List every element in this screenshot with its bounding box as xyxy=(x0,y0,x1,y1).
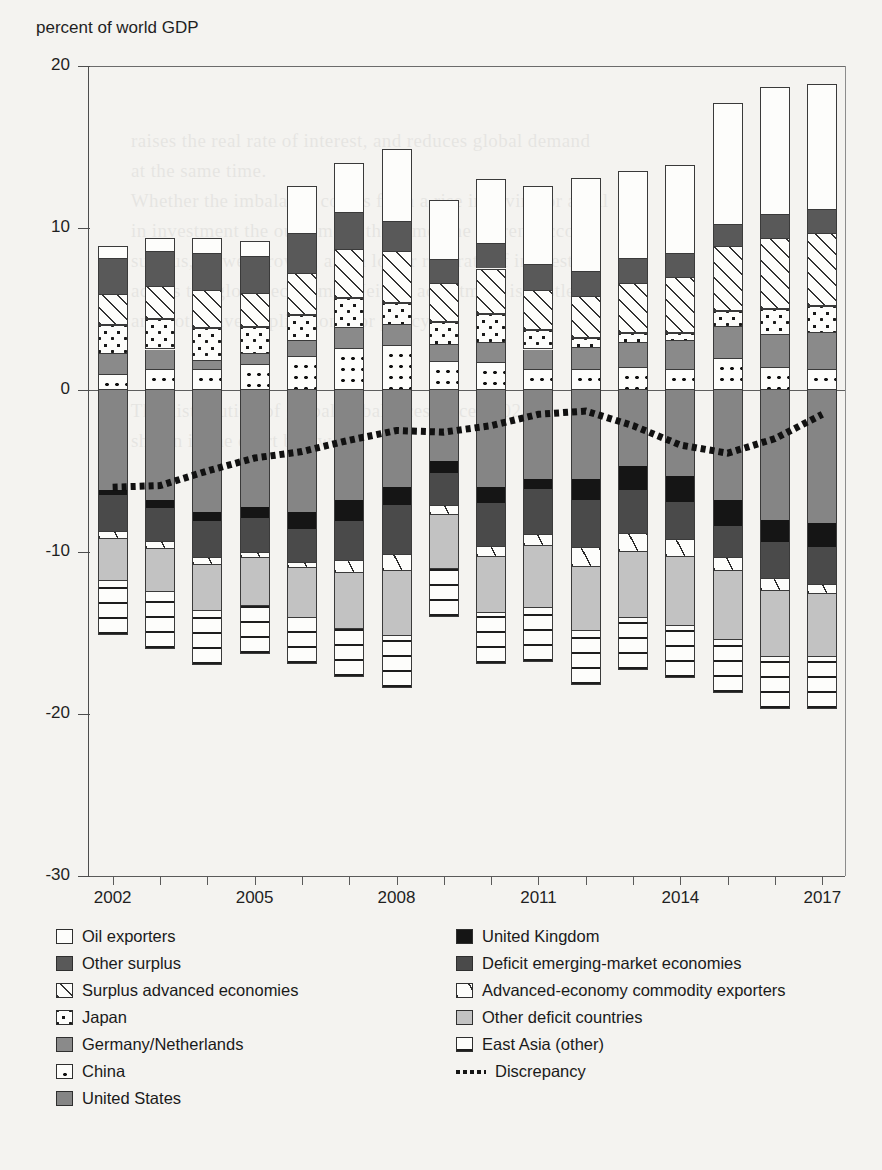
legend-item-label: United Kingdom xyxy=(482,926,599,946)
bar-2004[interactable] xyxy=(192,66,222,876)
legend-item-label: Deficit emerging-market economies xyxy=(482,953,742,973)
legend-column-left: Oil exportersOther surplusSurplus advanc… xyxy=(56,926,456,1115)
legend-item[interactable]: Advanced-economy commodity exporters xyxy=(456,980,856,1000)
x-axis-tick xyxy=(160,876,161,885)
bar-segment xyxy=(523,350,553,369)
bar-segment xyxy=(192,361,222,369)
bar-2016[interactable] xyxy=(760,66,790,876)
bar-segment xyxy=(618,333,648,343)
bar-segment xyxy=(618,617,648,670)
y-axis-label: -20 xyxy=(14,703,70,723)
legend-item[interactable]: China xyxy=(56,1061,456,1081)
bar-segment xyxy=(334,213,364,249)
bar-segment xyxy=(287,512,317,530)
bar-2008[interactable] xyxy=(382,66,412,876)
bar-segment xyxy=(713,571,743,639)
legend-item-label: Other deficit countries xyxy=(482,1007,643,1027)
bar-segment xyxy=(523,330,553,349)
bar-segment xyxy=(571,390,601,479)
bar-segment xyxy=(334,249,364,298)
bar-2006[interactable] xyxy=(287,66,317,876)
legend-swatch xyxy=(56,1010,73,1025)
bar-segment xyxy=(713,358,743,390)
bar-2015[interactable] xyxy=(713,66,743,876)
x-axis-label: 2014 xyxy=(661,888,699,908)
legend-item[interactable]: United States xyxy=(56,1088,456,1108)
bar-segment xyxy=(145,549,175,591)
bar-2007[interactable] xyxy=(334,66,364,876)
legend-item-label: Advanced-economy commodity exporters xyxy=(482,980,786,1000)
bar-segment xyxy=(523,479,553,489)
bar-segment xyxy=(618,533,648,552)
bar-segment xyxy=(523,369,553,390)
bar-segment xyxy=(240,558,270,605)
bar-2009[interactable] xyxy=(429,66,459,876)
y-axis-label: 20 xyxy=(14,55,70,75)
bar-segment xyxy=(476,546,506,557)
x-axis-tick xyxy=(397,876,398,885)
bar-segment xyxy=(382,571,412,634)
bar-segment xyxy=(192,521,222,557)
bar-segment xyxy=(382,345,412,390)
bar-segment xyxy=(429,260,459,283)
bar-segment xyxy=(760,542,790,578)
legend-item[interactable]: United Kingdom xyxy=(456,926,856,946)
bar-segment xyxy=(760,215,790,238)
bar-segment xyxy=(287,273,317,315)
bar-segment xyxy=(240,605,270,654)
y-axis-label: -30 xyxy=(14,865,70,885)
bar-segment xyxy=(760,367,790,390)
legend-swatch xyxy=(456,1037,473,1052)
bar-segment xyxy=(476,362,506,390)
bar-segment xyxy=(571,178,601,272)
x-axis-tick xyxy=(538,876,539,885)
bar-segment xyxy=(240,364,270,390)
bar-segment xyxy=(807,390,837,523)
bar-segment xyxy=(476,487,506,503)
bar-2003[interactable] xyxy=(145,66,175,876)
legend-item-label: Japan xyxy=(82,1007,127,1027)
bar-2010[interactable] xyxy=(476,66,506,876)
y-axis-title: percent of world GDP xyxy=(36,18,199,38)
bar-segment xyxy=(760,578,790,591)
bar-segment xyxy=(382,487,412,505)
bar-segment xyxy=(713,311,743,327)
bar-2014[interactable] xyxy=(665,66,695,876)
axis-line-right xyxy=(845,66,846,876)
bar-2011[interactable] xyxy=(523,66,553,876)
bar-2017[interactable] xyxy=(807,66,837,876)
legend-swatch xyxy=(456,1010,473,1025)
legend-item[interactable]: Other surplus xyxy=(56,953,456,973)
bar-segment xyxy=(98,259,128,295)
legend-item[interactable]: Other deficit countries xyxy=(456,1007,856,1027)
bar-segment xyxy=(571,479,601,500)
bar-segment xyxy=(713,246,743,311)
bar-segment xyxy=(807,333,837,369)
x-axis-tick xyxy=(680,876,681,885)
legend-item[interactable]: Japan xyxy=(56,1007,456,1027)
bar-segment xyxy=(713,500,743,526)
legend: Oil exportersOther surplusSurplus advanc… xyxy=(56,926,856,1115)
bar-segment xyxy=(240,507,270,518)
legend-item[interactable]: East Asia (other) xyxy=(456,1034,856,1054)
bar-segment xyxy=(98,325,128,354)
bar-segment xyxy=(760,520,790,543)
bar-segment xyxy=(334,348,364,390)
bar-segment xyxy=(665,254,695,277)
bar-2005[interactable] xyxy=(240,66,270,876)
x-axis-tick xyxy=(255,876,256,885)
legend-item[interactable]: Discrepancy xyxy=(456,1061,856,1081)
bar-segment xyxy=(807,523,837,547)
legend-item[interactable]: Oil exporters xyxy=(56,926,456,946)
x-axis-tick xyxy=(633,876,634,885)
bar-2012[interactable] xyxy=(571,66,601,876)
bar-segment xyxy=(98,539,128,580)
bar-segment xyxy=(571,500,601,547)
bar-segment xyxy=(429,361,459,390)
bar-segment xyxy=(713,225,743,246)
legend-item[interactable]: Surplus advanced economies xyxy=(56,980,456,1000)
bar-2002[interactable] xyxy=(98,66,128,876)
legend-item[interactable]: Deficit emerging-market economies xyxy=(456,953,856,973)
legend-item[interactable]: Germany/Netherlands xyxy=(56,1034,456,1054)
bar-2013[interactable] xyxy=(618,66,648,876)
